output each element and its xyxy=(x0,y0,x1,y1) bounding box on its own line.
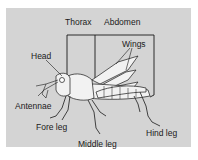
label-head: Head xyxy=(31,52,51,61)
label-fore-leg: Fore leg xyxy=(36,123,67,132)
label-antennae: Antennae xyxy=(15,102,51,111)
label-abdomen: Abdomen xyxy=(104,18,140,27)
label-thorax: Thorax xyxy=(65,18,91,27)
antennae-shape xyxy=(36,80,58,98)
label-hind-leg: Hind leg xyxy=(146,129,177,138)
label-middle-leg: Middle leg xyxy=(78,140,117,149)
label-wings: Wings xyxy=(122,40,146,49)
